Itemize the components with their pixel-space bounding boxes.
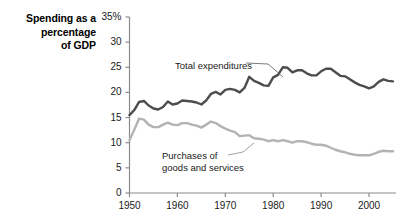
x-axis-ticks [130,193,370,197]
x-axis-tick-label: 1990 [301,200,341,211]
series-label-total-expenditures: Total expenditures [175,60,252,72]
y-axis-tick-label: 35% [92,11,122,22]
y-axis-tick-label: 15 [96,112,122,123]
y-axis-tick-label: 5 [96,162,122,173]
series-label-purchases-line-2: goods and services [162,162,244,174]
series-label-total-text: Total expenditures [175,60,252,71]
y-axis-tick-label: 30 [96,36,122,47]
x-axis-tick-label: 1950 [110,200,150,211]
x-axis-tick-label: 2000 [349,200,389,211]
chart-plot-area [0,0,415,221]
series-label-purchases: Purchases of goods and services [162,150,244,174]
chart-series-lines [130,67,394,155]
y-axis-tick-label: 20 [96,86,122,97]
y-axis-tick-label: 25 [96,61,122,72]
x-axis-tick-label: 1970 [205,200,245,211]
series-line-total-expenditures [130,67,394,115]
y-axis-tick-label: 10 [96,137,122,148]
chart-figure: Spending as a percentage of GDP Total ex… [0,0,415,221]
y-axis-tick-label: 0 [96,187,122,198]
series-label-purchases-line-1: Purchases of [162,150,244,162]
x-axis-tick-label: 1980 [253,200,293,211]
x-axis-tick-label: 1960 [157,200,197,211]
